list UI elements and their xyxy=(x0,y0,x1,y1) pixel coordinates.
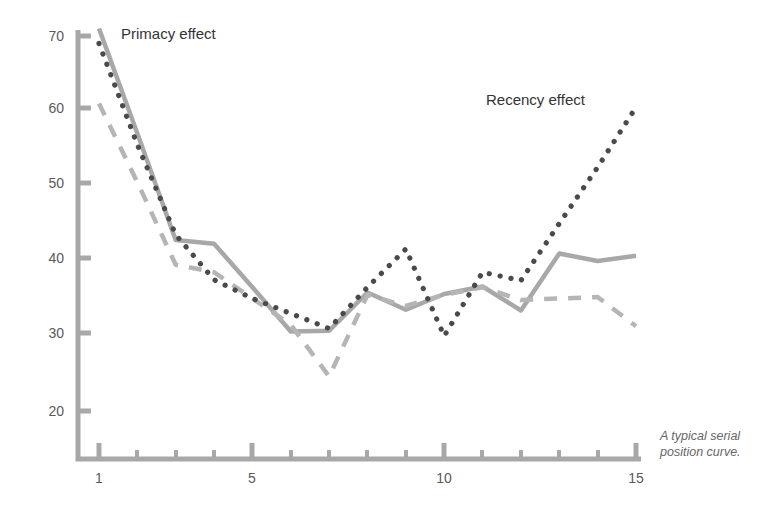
annotation-layer: Primacy effectRecency effect xyxy=(121,25,586,108)
caption-line-1: A typical serial xyxy=(660,428,770,444)
y-axis-tick-label: 60 xyxy=(48,100,64,116)
y-axis-tick-label: 70 xyxy=(48,28,64,44)
x-axis-tick-label: 10 xyxy=(436,470,452,486)
serial-position-curve-figure: 706050403020151015 Primacy effectRecency… xyxy=(0,0,772,507)
y-axis-tick-label: 20 xyxy=(48,403,64,419)
y-axis-tick-label: 40 xyxy=(48,250,64,266)
chart-canvas: 706050403020151015 Primacy effectRecency… xyxy=(0,0,772,507)
series-solid-curve xyxy=(99,29,636,332)
y-axis-tick-label: 50 xyxy=(48,175,64,191)
annotation-primacy: Primacy effect xyxy=(121,25,217,42)
caption-line-2: position curve. xyxy=(660,444,770,460)
x-axis-tick-label: 1 xyxy=(95,470,103,486)
y-axis-tick-label: 30 xyxy=(48,325,64,341)
series-layer xyxy=(99,29,636,377)
x-axis-tick-label: 5 xyxy=(248,470,256,486)
x-axis-tick-label: 15 xyxy=(628,470,644,486)
figure-caption: A typical serial position curve. xyxy=(660,428,770,460)
annotation-recency: Recency effect xyxy=(486,91,586,108)
